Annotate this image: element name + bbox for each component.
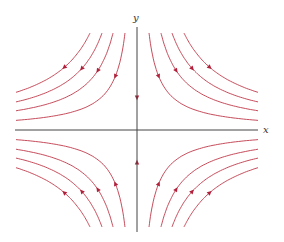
trajectory-curve [172,158,258,227]
trajectory-curve [184,168,258,227]
trajectory-curve [16,158,102,227]
trajectory-curve [16,168,90,227]
trajectory-curve [16,33,113,111]
trajectory-curve [161,149,258,227]
trajectory-curve [16,33,102,102]
trajectory-curve [172,33,258,102]
phase-portrait-diagram: x y [0,0,284,242]
trajectory-curve [16,33,90,92]
x-axis-label: x [263,124,269,135]
trajectory-curve [16,149,113,227]
y-axis-label: y [132,12,139,23]
trajectory-curve [161,33,258,111]
trajectory-curve [184,33,258,92]
